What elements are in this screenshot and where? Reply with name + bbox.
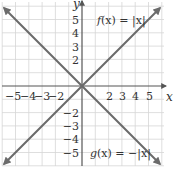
absolute-value-graph: y x −5 −4 −3 −2 2 3 4 5 5 4 3 2 −2 −3 −4… bbox=[0, 0, 173, 173]
y-tick-m4: −4 bbox=[63, 133, 79, 146]
y-tick-p2: 2 bbox=[72, 54, 79, 67]
y-tick-labels: 5 4 3 2 −2 −3 −4 −5 bbox=[63, 14, 79, 160]
y-tick-p3: 3 bbox=[72, 41, 79, 54]
y-tick-m5: −5 bbox=[63, 147, 79, 160]
x-tick-p2: 2 bbox=[106, 90, 113, 103]
x-tick-m2: −2 bbox=[48, 90, 64, 103]
x-tick-p4: 4 bbox=[132, 90, 139, 103]
g-function-label: g(x) = −|x| bbox=[90, 147, 151, 161]
x-tick-m5: −5 bbox=[5, 90, 21, 103]
y-tick-m2: −2 bbox=[63, 107, 79, 120]
y-tick-p5: 5 bbox=[72, 14, 79, 27]
f-function-label: f(x) = |x| bbox=[96, 14, 146, 28]
g-rest: (x) = −|x| bbox=[97, 147, 151, 161]
y-tick-p4: 4 bbox=[72, 27, 79, 40]
x-axis-label: x bbox=[166, 90, 173, 104]
x-tick-labels: −5 −4 −3 −2 2 3 4 5 bbox=[5, 90, 153, 103]
x-tick-p5: 5 bbox=[146, 90, 153, 103]
y-axis-label: y bbox=[72, 0, 80, 11]
f-rest: (x) = |x| bbox=[101, 14, 146, 28]
g-name: g bbox=[90, 147, 97, 160]
x-tick-p3: 3 bbox=[119, 90, 126, 103]
y-tick-m3: −3 bbox=[63, 120, 79, 133]
